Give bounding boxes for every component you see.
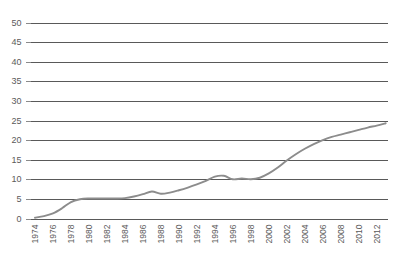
y-axis-tick-label: 35: [11, 76, 21, 86]
x-axis-tick-label: 1982: [102, 224, 112, 243]
x-axis-tick-label: 1998: [246, 224, 256, 243]
x-axis-tick-label: 1990: [174, 224, 184, 243]
x-axis-tick-label: 1978: [66, 224, 76, 243]
y-axis-tick-label: 30: [11, 96, 21, 106]
y-axis-tick-label: 25: [11, 116, 21, 126]
x-axis-tick-label: 2010: [354, 224, 364, 243]
x-axis-tick-label: 2002: [282, 224, 292, 243]
x-axis-tick-label: 1984: [120, 224, 130, 243]
data-series-group: [35, 123, 386, 217]
x-axis-tick-label: 1992: [192, 224, 202, 243]
x-axis-tick-label: 1996: [228, 224, 238, 243]
y-axis-tick-label: 5: [16, 194, 21, 204]
plot-area: 05101520253035404550 1974197619781980198…: [0, 0, 399, 264]
y-axis-tick-label: 40: [11, 57, 21, 67]
x-axis-tick-labels: 1974197619781980198219841986198819901992…: [30, 224, 382, 243]
x-axis-tick-label: 2006: [318, 224, 328, 243]
x-axis-tick-label: 2012: [372, 224, 382, 243]
y-axis-tick-labels: 05101520253035404550: [11, 18, 21, 224]
y-axis-tick-label: 15: [11, 155, 21, 165]
y-axis-tick-label: 50: [11, 18, 21, 28]
data-line-series-1: [35, 123, 386, 217]
x-axis-tick-label: 1974: [30, 224, 40, 243]
x-axis-tick-label: 2000: [264, 224, 274, 243]
x-axis-tick-label: 1986: [138, 224, 148, 243]
line-chart-svg: 05101520253035404550 1974197619781980198…: [0, 0, 399, 264]
x-axis-tick-label: 1976: [48, 224, 58, 243]
chart-container: 05101520253035404550 1974197619781980198…: [0, 0, 399, 264]
x-axis-tick-label: 1994: [210, 224, 220, 243]
x-axis-tick-label: 1980: [84, 224, 94, 243]
x-axis-tick-label: 1988: [156, 224, 166, 243]
y-axis-tick-label: 45: [11, 37, 21, 47]
y-axis-tick-label: 20: [11, 135, 21, 145]
x-axis-tick-label: 2008: [336, 224, 346, 243]
y-axis-tick-label: 0: [16, 214, 21, 224]
x-axis-tick-label: 2004: [300, 224, 310, 243]
y-axis-tick-label: 10: [11, 174, 21, 184]
gridlines-group: [26, 24, 388, 220]
